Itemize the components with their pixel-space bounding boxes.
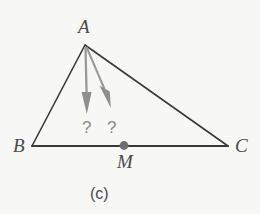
altitude-arrow-shaft xyxy=(86,47,87,94)
figure-caption: (c) xyxy=(90,186,109,202)
geometry-figure-c: A B C M ? ? (c) xyxy=(0,0,260,214)
altitude-arrow-head xyxy=(82,92,92,114)
question-mark-right: ? xyxy=(107,119,116,136)
midpoint-dot-m xyxy=(120,141,129,150)
triangle-diagram-svg xyxy=(0,0,260,214)
point-label-m: M xyxy=(117,152,133,171)
vertex-label-b: B xyxy=(13,136,25,155)
median-arrow-head xyxy=(100,86,111,109)
triangle-edge-ab xyxy=(32,45,85,146)
vertex-label-a: A xyxy=(78,17,90,36)
vertex-label-c: C xyxy=(235,136,248,155)
question-mark-left: ? xyxy=(82,119,91,136)
